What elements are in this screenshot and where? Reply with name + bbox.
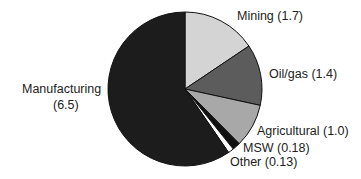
label-other: Other (0.13) [230, 155, 297, 169]
label-msw: MSW (0.18) [243, 141, 310, 155]
label-manufacturing: Manufacturing [22, 82, 101, 96]
label-agricultural: Agricultural (1.0) [257, 124, 349, 138]
label-oilgas: Oil/gas (1.4) [269, 67, 337, 81]
label-manufacturing-value: (6.5) [53, 98, 79, 112]
label-mining: Mining (1.7) [237, 9, 303, 23]
